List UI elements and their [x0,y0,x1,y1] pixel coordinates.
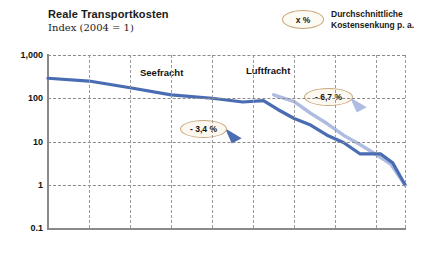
callout-luftfracht-rate: - 6,7 % [304,88,353,106]
legend-description: Durchschnittliche Kostensenkung p. a. [331,9,414,30]
gridline-horizontal [48,55,405,56]
y-axis-tick-label: 1,000 [20,50,43,60]
gridline-horizontal [48,98,405,99]
chart-subtitle: Index (2004 = 1) [48,21,169,34]
gridline-vertical [212,55,213,228]
legend-oval-icon: x % [282,10,324,29]
legend: x % Durchschnittliche Kostensenkung p. a… [282,9,414,30]
gridline-vertical [171,55,172,228]
chart-root: Reale Transportkosten Index (2004 = 1) x… [0,0,441,261]
callout-seefracht-rate: - 3,4 % [180,120,227,138]
legend-description-line1: Durchschnittliche [331,9,414,20]
gridline-vertical [376,55,377,228]
gridline-horizontal [48,185,405,186]
gridline-vertical [253,55,254,228]
title-block: Reale Transportkosten Index (2004 = 1) [48,8,169,34]
plot-area: Seefracht Luftfracht - 3,4 % - 6,7 % 1,0… [48,55,405,228]
y-axis-tick-label: 1 [38,180,43,190]
arrow-icon-luftfracht [350,97,367,112]
callout-luftfracht-text: - 6,7 % [315,92,342,102]
gridline-vertical [405,55,406,228]
gridline-vertical [294,55,295,228]
gridline-vertical [130,55,131,228]
page-title: Reale Transportkosten [48,8,169,21]
gridline-horizontal [48,142,405,143]
legend-oval-label: x % [296,15,311,25]
y-axis-tick-label: 100 [28,93,43,103]
gridline-vertical [335,55,336,228]
y-axis-tick-label: 10 [33,137,43,147]
gridline-vertical [89,55,90,228]
legend-description-line2: Kostensenkung p. a. [331,20,414,31]
y-axis-tick-label: 0.1 [30,223,43,233]
series-label-seefracht: Seefracht [140,67,183,78]
gridline-horizontal [48,228,405,229]
